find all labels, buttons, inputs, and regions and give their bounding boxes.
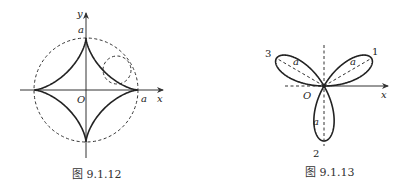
right-a-label: a	[141, 93, 147, 104]
origin-label: O	[77, 94, 85, 105]
petal-3-label: 3	[265, 48, 271, 59]
petal-3-a-label: a	[293, 56, 299, 67]
origin-label: O	[303, 90, 311, 101]
figure-canvas: y a O a x 图 9.1.12 1 3 2 a a a O x 图 9.1…	[0, 0, 404, 193]
petal-2-label: 2	[313, 148, 319, 159]
x-axis-label: x	[157, 93, 163, 104]
petal-1-label: 1	[372, 46, 378, 57]
y-axis-label: y	[76, 8, 83, 19]
rose-figure: 1 3 2 a a a O x 图 9.1.13	[265, 45, 388, 179]
rolling-dashed-circle	[103, 56, 131, 84]
astroid-figure: y a O a x 图 9.1.12	[20, 8, 163, 181]
petal-1-a-label: a	[350, 56, 356, 67]
origin-dot	[322, 84, 326, 88]
petal-2-a-label: a	[313, 116, 319, 127]
caption-9-1-12: 图 9.1.12	[72, 168, 121, 181]
top-a-label: a	[78, 24, 84, 35]
caption-9-1-13: 图 9.1.13	[305, 166, 354, 179]
x-axis-label: x	[381, 89, 387, 100]
